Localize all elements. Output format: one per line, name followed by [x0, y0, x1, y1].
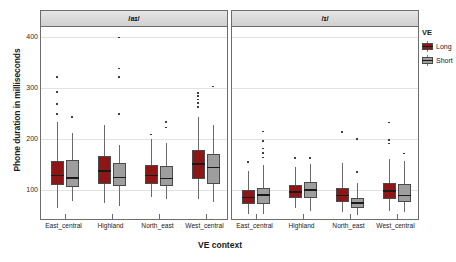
- x-tick-mark: [112, 214, 113, 219]
- y-tick-label: 200: [14, 134, 38, 141]
- x-tick-label: East_central: [236, 222, 273, 229]
- panel-ai: /aɪ/: [40, 10, 228, 220]
- outlier-point: [341, 131, 343, 133]
- median-line: [304, 189, 317, 191]
- x-tick-label: Highland: [288, 222, 314, 229]
- legend-label-short: Short: [436, 57, 453, 64]
- median-line: [289, 191, 302, 193]
- outlier-point: [150, 134, 152, 136]
- x-tick-mark: [206, 214, 207, 219]
- x-tick-mark: [397, 214, 398, 219]
- median-line: [51, 175, 64, 177]
- median-line: [192, 163, 205, 165]
- x-tick-label: West_central: [376, 222, 414, 229]
- legend-key-long-icon: [422, 41, 433, 52]
- x-tick-label: North_east: [332, 222, 364, 229]
- outlier-point: [262, 157, 264, 159]
- outlier-point: [118, 68, 120, 70]
- y-tick-label: 300: [14, 83, 38, 90]
- x-tick-mark: [350, 214, 351, 219]
- x-tick-label: East_central: [45, 222, 82, 229]
- boxplot-figure: Phone duration in milliseconds 100200300…: [0, 0, 456, 262]
- outlier-point: [403, 153, 405, 155]
- outlier-point: [56, 91, 58, 93]
- x-tick-mark: [65, 214, 66, 219]
- box: [66, 160, 79, 187]
- legend-key-short-icon: [422, 55, 433, 66]
- legend-title: VE: [422, 28, 456, 37]
- gridline: [232, 88, 418, 89]
- panel-ih: /ɪ/: [231, 10, 419, 220]
- median-line: [113, 177, 126, 179]
- median-line: [242, 197, 255, 199]
- box: [207, 154, 220, 184]
- outlier-point: [197, 106, 199, 108]
- panel-ai-header: /aɪ/: [41, 11, 227, 27]
- outlier-point: [262, 140, 264, 142]
- outlier-point: [197, 95, 199, 97]
- box: [113, 163, 126, 186]
- outlier-point: [118, 113, 120, 115]
- median-line: [160, 178, 173, 180]
- gridline: [232, 139, 418, 140]
- box: [160, 166, 173, 186]
- panel-ih-header: /ɪ/: [232, 11, 418, 27]
- outlier-point: [165, 121, 167, 123]
- gridline: [41, 37, 227, 38]
- y-tick-label: 100: [14, 185, 38, 192]
- outlier-point: [247, 161, 249, 163]
- outlier-point: [165, 127, 167, 129]
- median-line: [351, 202, 364, 204]
- y-tick-label: 400: [14, 33, 38, 40]
- outlier-point: [294, 157, 296, 159]
- median-line: [98, 170, 111, 172]
- median-line: [66, 177, 79, 179]
- median-line: [383, 190, 396, 192]
- panel-ih-plot: [232, 27, 418, 219]
- median-line: [398, 195, 411, 197]
- outlier-point: [197, 102, 199, 104]
- y-axis-tick-labels: 100200300400: [12, 0, 38, 262]
- box: [51, 161, 64, 186]
- outlier-point: [56, 113, 58, 115]
- median-line: [257, 194, 270, 196]
- outlier-point: [197, 99, 199, 101]
- outlier-point: [71, 116, 73, 118]
- x-tick-label: West_central: [185, 222, 223, 229]
- gridline: [41, 139, 227, 140]
- outlier-point: [388, 122, 390, 124]
- outlier-point: [262, 148, 264, 150]
- panel-ai-plot: [41, 27, 227, 219]
- outlier-point: [197, 92, 199, 94]
- outlier-point: [262, 131, 264, 133]
- legend-label-long: Long: [436, 43, 452, 50]
- legend-item-short: Short: [422, 55, 456, 66]
- outlier-point: [356, 138, 358, 140]
- median-line: [207, 167, 220, 169]
- outlier-point: [309, 157, 311, 159]
- outlier-point: [118, 76, 120, 78]
- legend: VE Long Short: [422, 28, 456, 69]
- legend-item-long: Long: [422, 41, 456, 52]
- x-tick-mark: [256, 214, 257, 219]
- outlier-point: [212, 86, 214, 88]
- outlier-point: [262, 152, 264, 154]
- x-tick-mark: [159, 214, 160, 219]
- gridline: [41, 88, 227, 89]
- box: [398, 184, 411, 202]
- outlier-point: [388, 143, 390, 145]
- outlier-point: [56, 76, 58, 78]
- gridline: [41, 190, 227, 191]
- x-tick-label: North_east: [141, 222, 173, 229]
- x-axis-title: VE context: [30, 240, 410, 250]
- x-tick-label: Highland: [97, 222, 123, 229]
- gridline: [232, 37, 418, 38]
- outlier-point: [118, 37, 120, 39]
- outlier-point: [388, 139, 390, 141]
- x-tick-mark: [303, 214, 304, 219]
- outlier-point: [56, 103, 58, 105]
- median-line: [336, 195, 349, 197]
- outlier-point: [356, 171, 358, 173]
- median-line: [145, 175, 158, 177]
